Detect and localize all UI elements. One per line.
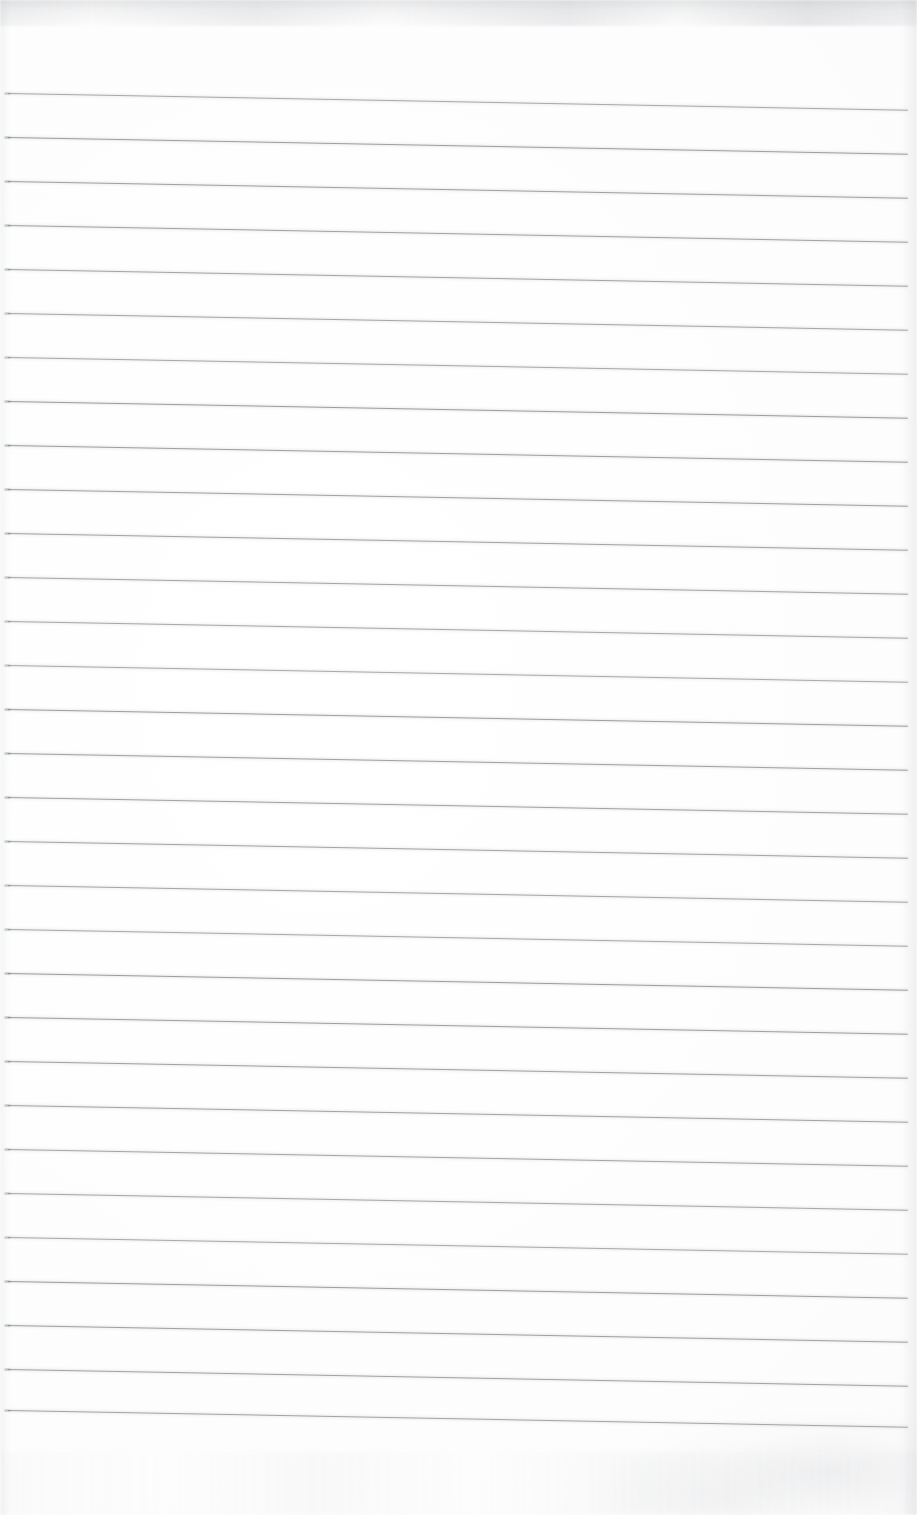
ruled-line [8, 357, 908, 375]
ruled-line [8, 401, 908, 419]
ruled-line [8, 1105, 908, 1123]
ruled-line [8, 1325, 908, 1343]
ruled-line [8, 841, 908, 859]
ruled-line-field [0, 0, 917, 1515]
ruled-line [8, 1017, 908, 1035]
ruled-line [8, 1237, 908, 1255]
ruled-line [8, 753, 908, 771]
ruled-line [8, 1193, 908, 1211]
ruled-line [8, 577, 908, 595]
ruled-line [8, 533, 908, 551]
ruled-line [8, 885, 908, 903]
ruled-line [8, 1369, 908, 1387]
ruled-line [8, 269, 908, 287]
ruled-line [8, 181, 908, 199]
ruled-line [8, 1149, 908, 1167]
scanned-notebook-page [0, 0, 917, 1515]
ruled-line [8, 1061, 908, 1079]
ruled-line [8, 313, 908, 331]
ruled-line [8, 665, 908, 683]
ruled-line [8, 973, 908, 991]
ruled-line [8, 797, 908, 815]
ruled-line [8, 1281, 908, 1299]
ruled-line [8, 225, 908, 243]
ruled-line [8, 489, 908, 507]
ruled-line [8, 621, 908, 639]
ruled-line [8, 709, 908, 727]
scan-artifact-bottom-right-smudge [600, 1415, 917, 1515]
ruled-line [8, 93, 908, 111]
ruled-line [8, 137, 908, 155]
ruled-line [8, 929, 908, 947]
ruled-line [8, 445, 908, 463]
